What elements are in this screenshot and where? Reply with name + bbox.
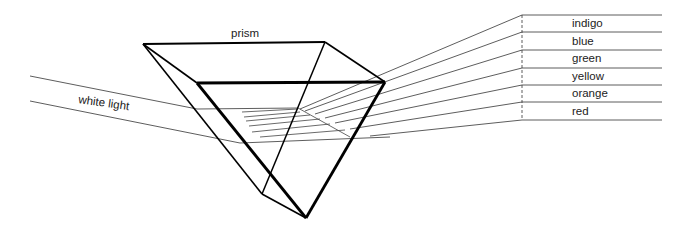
color-label-orange: orange [572, 87, 608, 99]
spectrum-table [522, 15, 662, 120]
prism [143, 42, 385, 218]
color-label-indigo: indigo [572, 17, 603, 29]
color-label-yellow: yellow [572, 70, 605, 82]
color-label-green: green [572, 52, 601, 64]
prism-dispersion-diagram: prism white light indigo blue green yell… [0, 0, 690, 238]
spectrum-rays [300, 15, 522, 136]
prism-label: prism [231, 27, 259, 39]
white-light-label: white light [77, 93, 131, 112]
color-label-red: red [572, 105, 589, 117]
white-light-beam [30, 76, 390, 143]
color-label-blue: blue [572, 35, 594, 47]
